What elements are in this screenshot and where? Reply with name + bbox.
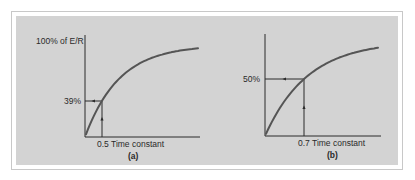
y-marker-label-b: 50% (243, 75, 260, 84)
chart-b (265, 34, 381, 136)
x-marker-label-b: 0.7 Time constant (298, 139, 365, 148)
caption-a: (a) (128, 152, 138, 161)
arrow-left-icon (283, 77, 287, 80)
x-marker-label-a: 0.5 Time constant (97, 140, 164, 149)
caption-b: (b) (327, 151, 338, 160)
chart-a (85, 35, 200, 137)
curve-a (86, 48, 198, 134)
arrow-left-icon (92, 99, 96, 102)
arrow-up-icon (302, 106, 305, 110)
y-marker-label-a: 39% (64, 97, 81, 106)
arrow-up-icon (100, 117, 103, 121)
y-top-label-a: 100% of E/R (36, 37, 84, 46)
curve-b (266, 48, 378, 134)
figure-graphics (0, 0, 415, 180)
